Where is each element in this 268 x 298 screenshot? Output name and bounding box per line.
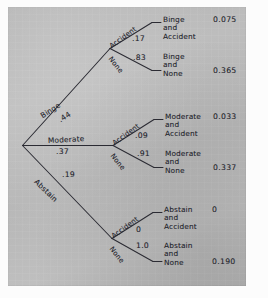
outcome-label-abstain-accident: AbstainandAccident (164, 206, 197, 231)
scan-margin-right (246, 0, 268, 298)
outcome-line-3: None (163, 69, 183, 78)
outcome-line-3: None (165, 166, 185, 175)
branch-probability-moderate: .37 (56, 148, 69, 157)
tree-diagram-lines (0, 0, 268, 298)
outcome-line-3: Accident (164, 222, 197, 231)
joint-probability-moderate-accident: 0.033 (213, 113, 237, 122)
joint-probability-binge-none: 0.365 (213, 67, 237, 76)
scan-margin-top (0, 0, 268, 7)
branch-probability-binge-none: .83 (133, 54, 146, 63)
outcome-line-3: Accident (163, 32, 196, 41)
joint-probability-abstain-none: 0.190 (212, 258, 236, 267)
branch-label-moderate: Moderate (48, 135, 85, 145)
branch-probability-abstain-none: 1.0 (136, 242, 149, 251)
branch-probability-moderate-none: .91 (137, 150, 150, 159)
joint-probability-abstain-accident: 0 (212, 206, 217, 215)
branch-line-binge (23, 49, 111, 146)
outcome-label-moderate-none: ModerateandNone (165, 150, 201, 175)
outcome-label-moderate-accident: ModerateandAccident (165, 113, 201, 138)
outcome-line-3: Accident (165, 129, 198, 138)
branch-probability-abstain: .19 (62, 171, 75, 180)
branch-probability-binge-accident: .17 (132, 35, 145, 44)
outcome-label-binge-accident: BingeandAccident (163, 16, 196, 41)
scan-margin-bottom (0, 286, 268, 298)
scan-margin-left (0, 0, 8, 298)
joint-probability-binge-accident: 0.075 (213, 16, 237, 25)
screenshot-canvas: Binge .44 Moderate .37 Abstain .19 Accid… (0, 0, 268, 298)
joint-probability-moderate-none: 0.337 (213, 164, 237, 173)
outcome-label-abstain-none: AbstainandNone (164, 242, 192, 267)
branch-line-abstain (23, 146, 113, 239)
branch-probability-abstain-accident: 0 (136, 226, 141, 235)
branch-probability-moderate-accident: .09 (135, 132, 148, 141)
outcome-line-3: None (164, 258, 184, 267)
outcome-label-binge-none: BingeandNone (163, 53, 185, 78)
